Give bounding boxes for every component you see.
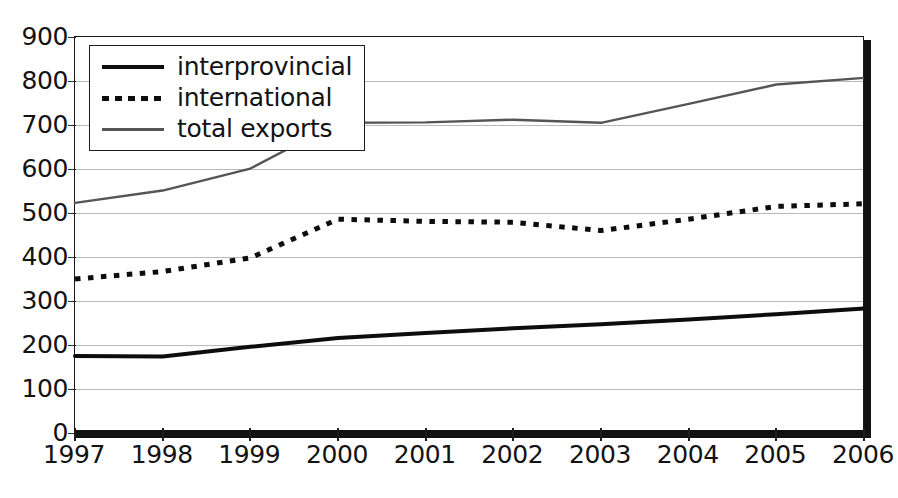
x-tick-label: 2005 bbox=[730, 442, 820, 467]
legend-label: total exports bbox=[177, 116, 332, 141]
x-tick-label: 1998 bbox=[117, 442, 207, 467]
series-line-international bbox=[75, 204, 864, 279]
legend-label: international bbox=[177, 85, 332, 110]
series-line-interprovincial bbox=[75, 308, 864, 356]
chart-figure: 0100200300400500600700800900 interprovin… bbox=[0, 0, 898, 498]
y-tick-label: 300 bbox=[6, 288, 68, 313]
legend-item-interprovincial: interprovincial bbox=[100, 51, 352, 82]
x-tick-mark bbox=[688, 428, 690, 441]
plot-area: interprovincial international total expo… bbox=[74, 36, 864, 432]
y-tick-label: 700 bbox=[6, 112, 68, 137]
y-tick-label: 500 bbox=[6, 200, 68, 225]
legend-item-total-exports: total exports bbox=[100, 113, 352, 144]
plot-right-edge bbox=[864, 40, 871, 436]
legend-label: interprovincial bbox=[177, 54, 352, 79]
y-tick-label: 600 bbox=[6, 156, 68, 181]
x-tick-mark bbox=[162, 428, 164, 441]
x-tick-label: 2000 bbox=[292, 442, 382, 467]
x-tick-label: 1999 bbox=[204, 442, 294, 467]
y-tick-label: 100 bbox=[6, 376, 68, 401]
y-axis-labels: 0100200300400500600700800900 bbox=[0, 0, 68, 498]
x-tick-mark bbox=[425, 428, 427, 441]
x-tick-mark bbox=[775, 428, 777, 441]
solid-thin-line-icon bbox=[100, 122, 166, 136]
y-tick-label: 900 bbox=[6, 24, 68, 49]
solid-thick-line-icon bbox=[100, 60, 166, 74]
x-tick-label: 2006 bbox=[818, 442, 898, 467]
x-tick-mark bbox=[249, 428, 251, 441]
legend-item-international: international bbox=[100, 82, 352, 113]
x-tick-mark bbox=[512, 428, 514, 441]
x-axis-line bbox=[74, 430, 871, 438]
x-tick-label: 2003 bbox=[555, 442, 645, 467]
x-tick-label: 2001 bbox=[380, 442, 470, 467]
x-tick-mark bbox=[74, 428, 76, 441]
x-tick-mark bbox=[337, 428, 339, 441]
y-tick-label: 200 bbox=[6, 332, 68, 357]
x-tick-label: 2004 bbox=[643, 442, 733, 467]
dotted-line-icon bbox=[100, 91, 166, 105]
y-tick-label: 400 bbox=[6, 244, 68, 269]
x-tick-label: 1997 bbox=[29, 442, 119, 467]
y-tick-label: 800 bbox=[6, 68, 68, 93]
x-tick-mark bbox=[863, 428, 865, 441]
x-tick-label: 2002 bbox=[467, 442, 557, 467]
chart-legend: interprovincial international total expo… bbox=[89, 45, 365, 151]
x-tick-mark bbox=[600, 428, 602, 441]
x-axis-labels: 1997199819992000200120022003200420052006 bbox=[74, 442, 864, 482]
